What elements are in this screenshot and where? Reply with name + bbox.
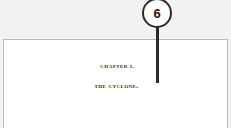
chapter-heading-block: Chapter I. The Cyclone.	[4, 62, 227, 90]
leader-line-icon	[156, 25, 159, 83]
screenshot-root: Chapter I. The Cyclone. 6	[0, 0, 231, 128]
document-page: Chapter I. The Cyclone.	[3, 39, 228, 128]
callout-badge-number: 6	[144, 0, 170, 26]
numbered-callout-circle-icon[interactable]: 6	[142, 0, 172, 28]
chapter-label: Chapter I.	[8, 62, 227, 71]
chapter-title: The Cyclone.	[6, 81, 227, 90]
